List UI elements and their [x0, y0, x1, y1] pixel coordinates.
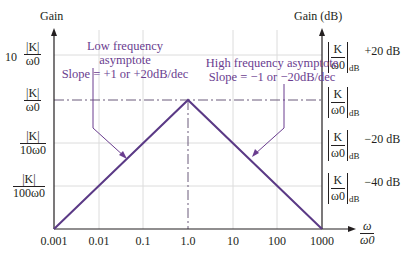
left-axis-title: Gain	[40, 9, 63, 24]
x-tick: 0.001	[41, 234, 68, 249]
x-axis-label: ωω0	[360, 220, 374, 247]
right-label-0: Kω0dB	[328, 87, 364, 118]
left-label-k-100: |K|100ω0	[13, 173, 45, 200]
x-tick: 100	[268, 234, 286, 249]
high-frequency-annotation: High frequency asymptote Slope = −1 or −…	[202, 56, 342, 84]
x-tick: 10	[227, 234, 239, 249]
x-tick: 1000	[310, 234, 334, 249]
right-axis-arrow-icon	[319, 28, 325, 36]
left-label-10k: |K|ω0	[24, 41, 41, 68]
x-tick: 0.01	[89, 234, 110, 249]
x-tick: 0.1	[136, 234, 151, 249]
x-tick: 1.0	[181, 234, 196, 249]
left-label-coef: 10	[5, 50, 17, 65]
left-label-k: |K|ω0	[24, 87, 41, 114]
left-axis-arrow-icon	[51, 28, 57, 36]
high-callout-arrow-icon	[252, 149, 259, 157]
reference-lines	[54, 100, 322, 229]
right-label-minus40: Kω0dB−40 dB	[328, 173, 400, 204]
low-frequency-annotation: Low frequency asymptote Slope = +1 or +2…	[60, 39, 190, 81]
left-label-k-10: |K|10ω0	[20, 130, 46, 157]
x-axis-arrow-icon	[348, 226, 356, 232]
right-axis-title: Gain (dB)	[294, 9, 342, 24]
right-label-minus20: Kω0dB−20 dB	[328, 130, 400, 161]
